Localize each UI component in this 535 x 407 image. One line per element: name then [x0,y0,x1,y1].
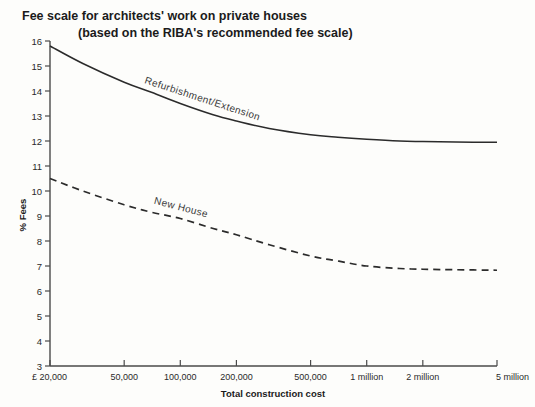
x-tick-label: 100,000 [164,372,197,382]
y-tick-label: 14 [31,86,42,97]
x-tick-label: 2 million [406,372,439,382]
y-tick-label: 12 [31,136,42,147]
y-tick-label: 4 [37,336,42,347]
x-tick-label: £ 20,000 [32,372,67,382]
y-tick-label: 9 [37,211,42,222]
chart-series [50,46,497,270]
x-tick-label: 50,000 [110,372,138,382]
y-tick-label: 7 [37,261,42,272]
y-tick-label: 16 [31,36,42,47]
series-label-2: New House [153,195,209,220]
y-tick-label: 6 [37,286,42,297]
series-line-1 [50,46,497,142]
x-tick-label: 5 million [496,372,529,382]
x-tick-label: 200,000 [220,372,253,382]
y-axis-title: % Fees [17,199,28,232]
x-axis: £ 20,00050,000100,000200,000500,0001 mil… [32,360,529,382]
chart-subtitle: (based on the RIBA's recommended fee sca… [78,26,353,40]
chart-title: Fee scale for architects' work on privat… [22,9,307,23]
y-tick-label: 3 [37,361,42,372]
x-tick-label: 1 million [350,372,383,382]
y-tick-label: 11 [32,161,42,172]
y-tick-label: 13 [31,111,42,122]
y-tick-label: 5 [37,311,42,322]
y-axis: 345678910111213141516 [31,36,50,372]
fee-scale-chart: Fee scale for architects' work on privat… [0,0,535,407]
y-tick-label: 8 [37,236,42,247]
y-tick-label: 10 [31,186,42,197]
y-tick-label: 15 [31,61,42,72]
x-axis-title: Total construction cost [221,388,326,399]
series-label-1: Refurbishment/Extension [143,74,261,122]
series-line-2 [50,179,497,271]
x-tick-label: 500,000 [294,372,327,382]
